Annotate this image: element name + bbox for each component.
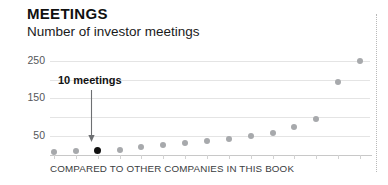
gridline xyxy=(50,98,370,99)
data-point xyxy=(204,138,210,144)
x-axis-tick xyxy=(163,155,164,159)
chart-footnote: COMPARED TO OTHER COMPANIES IN THIS BOOK xyxy=(50,163,294,175)
data-point xyxy=(51,149,57,155)
data-point xyxy=(226,136,232,142)
data-point-highlighted xyxy=(94,147,101,154)
page-title: MEETINGS xyxy=(27,6,108,22)
x-axis-tick xyxy=(76,155,77,159)
data-point xyxy=(117,147,123,153)
gridline xyxy=(50,117,370,118)
x-axis-tick xyxy=(141,155,142,159)
data-point xyxy=(160,142,166,148)
x-axis-tick xyxy=(229,155,230,159)
data-point xyxy=(73,148,79,154)
x-axis-tick xyxy=(338,155,339,159)
data-point xyxy=(182,140,188,146)
gridline xyxy=(50,136,370,137)
x-axis-tick xyxy=(120,155,121,159)
x-axis-tick xyxy=(360,155,361,159)
data-point xyxy=(335,79,341,85)
y-axis-tick-label: 50 xyxy=(5,130,45,141)
data-point xyxy=(270,130,276,136)
data-point xyxy=(248,133,254,139)
annotation-label: 10 meetings xyxy=(58,74,122,86)
x-axis-tick xyxy=(294,155,295,159)
arrow-down-icon xyxy=(87,90,96,142)
data-point xyxy=(357,58,363,64)
x-axis-tick xyxy=(273,155,274,159)
x-axis-tick xyxy=(98,155,99,159)
y-axis-tick-label: 250 xyxy=(5,55,45,66)
x-axis-tick xyxy=(185,155,186,159)
chart-figure: MEETINGS Number of investor meetings 10 … xyxy=(0,0,388,185)
x-axis-tick xyxy=(207,155,208,159)
data-point xyxy=(138,144,144,150)
x-axis-tick xyxy=(251,155,252,159)
x-axis-tick xyxy=(54,155,55,159)
x-axis-tick xyxy=(316,155,317,159)
data-point xyxy=(291,124,297,130)
y-axis-tick-label: 150 xyxy=(5,92,45,103)
gridline xyxy=(50,61,370,62)
plot-area xyxy=(50,52,370,154)
chart-subtitle: Number of investor meetings xyxy=(27,24,200,40)
data-point xyxy=(313,116,319,122)
right-dotted-divider xyxy=(376,14,377,172)
